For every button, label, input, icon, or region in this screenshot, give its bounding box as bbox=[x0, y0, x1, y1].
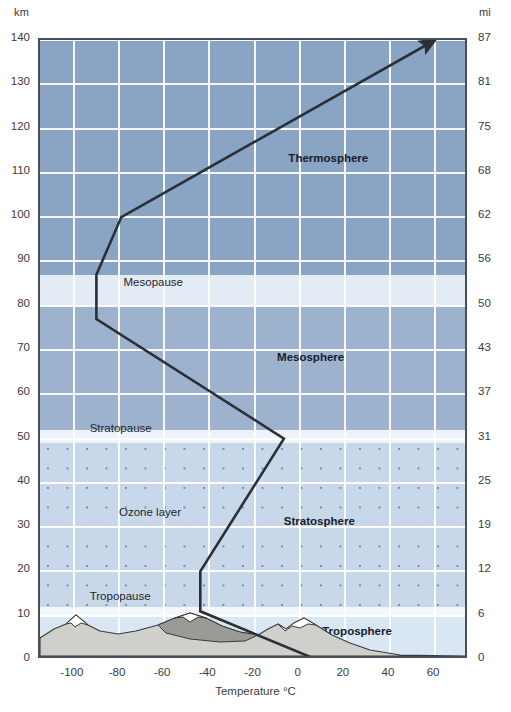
left-tick-20km: 20 bbox=[0, 562, 30, 574]
right-tick-81mi: 81 bbox=[478, 75, 508, 87]
right-tick-37mi: 37 bbox=[478, 385, 508, 397]
x-tick-40: 40 bbox=[368, 666, 408, 678]
right-tick-62mi: 62 bbox=[478, 208, 508, 220]
x-tick--100: -100 bbox=[52, 666, 92, 678]
right-tick-6mi: 6 bbox=[478, 607, 508, 619]
right-tick-75mi: 75 bbox=[478, 120, 508, 132]
atmosphere-temperature-chart: km mi 0102030405060708090100110120130140… bbox=[0, 0, 511, 712]
right-tick-87mi: 87 bbox=[478, 31, 508, 43]
x-tick--20: -20 bbox=[233, 666, 273, 678]
left-axis-unit-label: km bbox=[14, 6, 29, 18]
left-tick-30km: 30 bbox=[0, 518, 30, 530]
left-tick-60km: 60 bbox=[0, 385, 30, 397]
right-tick-25mi: 25 bbox=[478, 474, 508, 486]
right-tick-31mi: 31 bbox=[478, 430, 508, 442]
x-axis-title: Temperature °C bbox=[0, 685, 511, 697]
left-tick-100km: 100 bbox=[0, 208, 30, 220]
x-tick-60: 60 bbox=[413, 666, 453, 678]
left-tick-10km: 10 bbox=[0, 607, 30, 619]
right-tick-12mi: 12 bbox=[478, 562, 508, 574]
x-tick--40: -40 bbox=[187, 666, 227, 678]
right-tick-56mi: 56 bbox=[478, 252, 508, 264]
left-tick-70km: 70 bbox=[0, 341, 30, 353]
right-axis-unit-label: mi bbox=[479, 6, 491, 18]
left-tick-0km: 0 bbox=[0, 651, 30, 663]
left-tick-120km: 120 bbox=[0, 120, 30, 132]
right-tick-19mi: 19 bbox=[478, 518, 508, 530]
x-tick--60: -60 bbox=[142, 666, 182, 678]
left-tick-140km: 140 bbox=[0, 31, 30, 43]
x-tick--80: -80 bbox=[97, 666, 137, 678]
x-tick-0: 0 bbox=[278, 666, 318, 678]
temperature-profile-line bbox=[40, 40, 467, 658]
left-tick-40km: 40 bbox=[0, 474, 30, 486]
right-tick-68mi: 68 bbox=[478, 164, 508, 176]
x-tick-20: 20 bbox=[323, 666, 363, 678]
left-tick-80km: 80 bbox=[0, 297, 30, 309]
left-tick-50km: 50 bbox=[0, 430, 30, 442]
right-tick-0mi: 0 bbox=[478, 651, 508, 663]
left-tick-90km: 90 bbox=[0, 252, 30, 264]
right-tick-50mi: 50 bbox=[478, 297, 508, 309]
plot-area: ThermosphereMesopauseMesosphereStratopau… bbox=[38, 38, 467, 658]
left-tick-110km: 110 bbox=[0, 164, 30, 176]
left-tick-130km: 130 bbox=[0, 75, 30, 87]
right-tick-43mi: 43 bbox=[478, 341, 508, 353]
